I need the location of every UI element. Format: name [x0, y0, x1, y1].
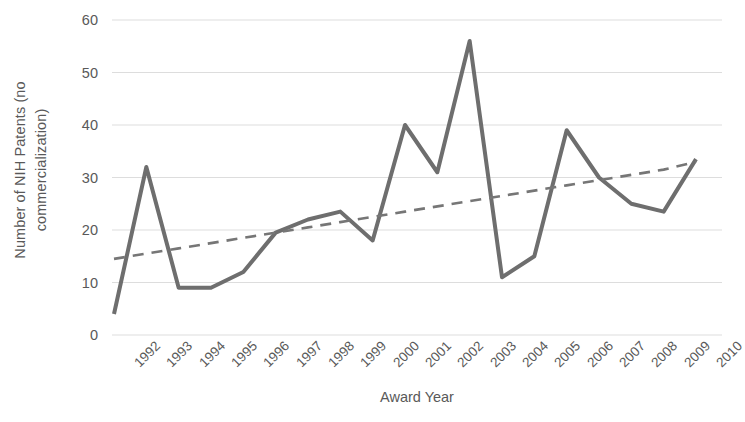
x-axis-tick-label: 1996: [261, 339, 292, 370]
chart-figure: Number of NIH Patents (no commercializat…: [0, 0, 745, 422]
trendline: [114, 162, 696, 259]
y-axis-tick-label: 10: [82, 275, 98, 290]
x-axis-tick-label: 2003: [488, 339, 519, 370]
x-axis-tick-label: 1994: [197, 339, 228, 370]
x-axis-tick-label: 1997: [294, 339, 325, 370]
y-axis-tick-label: 20: [82, 223, 98, 238]
y-axis-tick-label: 30: [82, 170, 98, 185]
x-axis-tick-label: 1998: [326, 339, 357, 370]
x-axis-tick-label: 2001: [423, 339, 454, 370]
x-axis-tick-label: 2006: [585, 339, 616, 370]
y-axis-title-line-2: commercialization): [31, 81, 52, 258]
x-axis-tick-label: 2007: [617, 339, 648, 370]
x-axis-tick-label: 2002: [455, 339, 486, 370]
plot-svg: [112, 20, 722, 335]
y-axis-tick-label: 40: [82, 118, 98, 133]
x-axis-tick-label: 1992: [132, 339, 163, 370]
x-axis-tick-label: 1999: [358, 339, 389, 370]
x-axis-tick-label: 2004: [520, 339, 551, 370]
x-axis-tick-label: 2009: [682, 339, 713, 370]
y-axis-title-line-1: Number of NIH Patents (no: [10, 81, 31, 258]
y-axis-tick-label: 50: [82, 65, 98, 80]
x-axis-tick-label: 2000: [391, 339, 422, 370]
x-axis-tick-label: 2010: [714, 339, 745, 370]
x-axis-tick-label: 1995: [229, 339, 260, 370]
x-axis-tick-labels: 1992199319941995199619971998199920002001…: [0, 325, 745, 385]
x-axis-title: Award Year: [112, 388, 722, 406]
x-axis-tick-label: 2008: [649, 339, 680, 370]
plot-area: [112, 20, 722, 335]
y-axis-title: Number of NIH Patents (no commercializat…: [0, 0, 62, 340]
x-axis-tick-label: 1993: [164, 339, 195, 370]
x-axis-tick-label: 2005: [552, 339, 583, 370]
y-axis-tick-label: 60: [82, 13, 98, 28]
